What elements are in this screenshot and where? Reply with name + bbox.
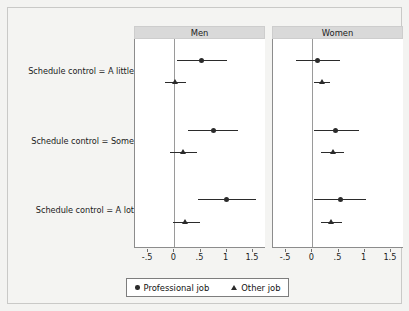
x-axis-tick-label: .5 (334, 252, 342, 262)
zero-reference-line (312, 39, 313, 247)
x-axis-tick-label: 1.5 (245, 252, 258, 262)
circle-marker (315, 58, 320, 63)
y-axis-label: Schedule control = A little (28, 66, 134, 76)
x-axis-tick-label: 1.5 (383, 252, 396, 262)
legend-label-professional: Professional job (144, 283, 210, 293)
triangle-marker (182, 219, 188, 224)
triangle-marker-icon (231, 285, 237, 290)
circle-marker-icon (135, 285, 140, 290)
circle-marker (224, 197, 229, 202)
plot-area-women (272, 39, 403, 248)
triangle-marker (319, 79, 325, 84)
x-axis-tick-label: -.5 (142, 252, 153, 262)
triangle-marker (328, 219, 334, 224)
figure-plate: Schedule control = A littleSchedule cont… (7, 7, 402, 304)
triangle-marker (180, 149, 186, 154)
x-axis-women: -.50.511.5 (272, 249, 403, 263)
chart-legend: Professional job Other job (126, 278, 289, 297)
panel-title-women: Women (272, 26, 403, 39)
triangle-marker (330, 149, 336, 154)
x-axis-tick-label: 0 (171, 252, 176, 262)
plot-area-men (134, 39, 265, 248)
panel-women: Women-.50.511.5 (272, 26, 403, 264)
circle-marker (199, 58, 204, 63)
x-axis-tick-label: .5 (196, 252, 204, 262)
triangle-marker (172, 79, 178, 84)
circle-marker (333, 128, 338, 133)
x-axis-tick-label: 1 (361, 252, 366, 262)
legend-item-professional: Professional job (135, 283, 209, 293)
x-axis-tick-label: 1 (223, 252, 228, 262)
zero-reference-line (174, 39, 175, 247)
x-axis-tick-label: 0 (309, 252, 314, 262)
figure-canvas: Schedule control = A littleSchedule cont… (0, 0, 409, 311)
circle-marker (338, 197, 343, 202)
y-axis-label: Schedule control = Some (31, 136, 134, 146)
x-axis-tick-label: -.5 (280, 252, 291, 262)
y-axis-label: Schedule control = A lot (36, 205, 134, 215)
legend-label-other: Other job (241, 283, 280, 293)
circle-marker (211, 128, 216, 133)
panel-title-men: Men (134, 26, 265, 39)
panel-men: Men-.50.511.5 (134, 26, 265, 264)
legend-item-other: Other job (231, 283, 280, 293)
y-axis-labels: Schedule control = A littleSchedule cont… (12, 38, 134, 248)
x-axis-men: -.50.511.5 (134, 249, 265, 263)
